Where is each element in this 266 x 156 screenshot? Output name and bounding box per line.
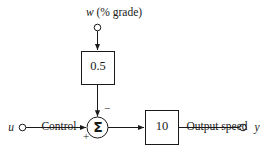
control-input-terminal-label: u	[5, 121, 17, 133]
summing-junction-minus-sign: −	[101, 103, 113, 115]
gain-block-value: 0.5	[81, 60, 115, 73]
control-input-label: Control (°)	[22, 96, 96, 156]
summing-junction-plus-sign: +	[80, 131, 92, 143]
disturbance-input-label: w (% grade)	[66, 6, 162, 18]
output-label-line1: Output speed	[172, 120, 262, 132]
output-terminal-label: y	[251, 121, 263, 133]
output-label: Output speed (mph)	[172, 96, 262, 156]
block-diagram-canvas: w (% grade) 0.5 Control (°) u Σ − + 10 O…	[0, 0, 266, 156]
disturbance-terminal-circle	[94, 24, 101, 31]
